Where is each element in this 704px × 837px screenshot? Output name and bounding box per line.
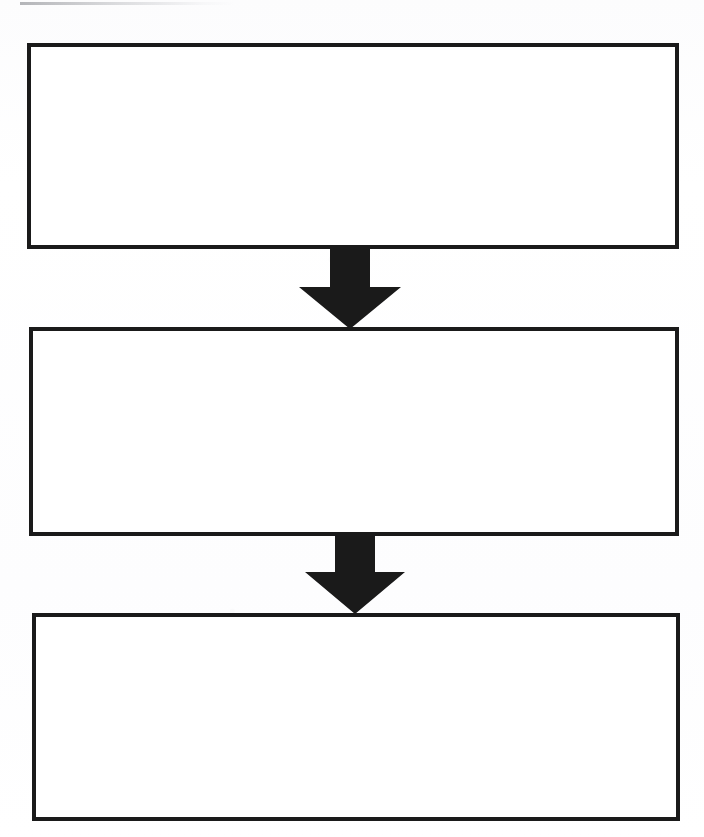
flowchart-node-1-label (31, 47, 675, 245)
flowchart-canvas (0, 0, 704, 837)
flowchart-node-2[interactable] (29, 327, 679, 536)
flowchart-node-3-label (36, 617, 676, 817)
flowchart-arrow-down-1 (297, 245, 403, 329)
flowchart-node-1[interactable] (27, 43, 679, 249)
flowchart-arrow-down-2 (303, 532, 407, 614)
scan-artifact-streak (20, 2, 235, 5)
arrow-down-icon (299, 245, 401, 329)
flowchart-node-3[interactable] (32, 613, 680, 821)
arrow-down-icon (305, 532, 405, 614)
flowchart-node-2-label (33, 331, 675, 532)
